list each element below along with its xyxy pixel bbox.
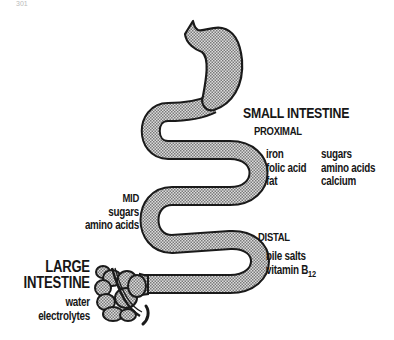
nutrient-sugars: sugars <box>321 148 375 162</box>
large-intestine <box>95 266 148 324</box>
distal-label: DISTAL <box>258 232 290 244</box>
large-intestine-title-1: LARGE <box>24 259 90 275</box>
nutrient-calcium: calcium <box>321 175 375 189</box>
large-electrolytes: electrolytes <box>24 310 90 324</box>
vitamin-b-text: vitamin B <box>266 263 308 277</box>
small-intestine-tube <box>138 104 260 284</box>
distal-group: bile salts vitamin B12 <box>266 250 327 281</box>
large-intestine-title-2: INTESTINE <box>24 275 90 291</box>
nutrient-fat: fat <box>266 175 306 189</box>
nutrient-iron: iron <box>266 148 306 162</box>
distal-vitamin-b12: vitamin B12 <box>266 264 316 282</box>
proximal-col2: sugars amino acids calcium <box>321 148 387 189</box>
distal-bile-salts: bile salts <box>266 250 316 264</box>
stomach <box>185 21 242 110</box>
mid-label: MID <box>85 193 139 205</box>
proximal-col1: iron folic acid fat <box>266 148 315 189</box>
mid-amino-acids: amino acids <box>85 219 139 233</box>
nutrient-folic-acid: folic acid <box>266 162 306 176</box>
nutrient-amino-acids: amino acids <box>321 162 375 176</box>
large-water: water <box>24 296 90 310</box>
proximal-label: PROXIMAL <box>254 126 302 138</box>
small-intestine-title: SMALL INTESTINE <box>243 105 349 120</box>
mid-sugars: sugars <box>85 206 139 220</box>
large-intestine-group: LARGE INTESTINE water electrolytes <box>9 259 90 323</box>
mid-group: MID sugars amino acids <box>73 193 139 233</box>
vitamin-subscript: 12 <box>308 269 316 279</box>
